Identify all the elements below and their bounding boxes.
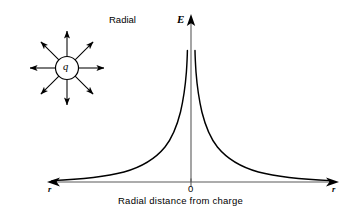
- y-axis-label: E: [177, 14, 184, 25]
- x-axis-left-label: r: [48, 185, 51, 194]
- field-arrow-45deg: [75, 42, 93, 60]
- charge-label: q: [63, 62, 68, 73]
- radial-field-figure: Radial q E 0 r r Radial distance from ch…: [0, 0, 351, 213]
- figure-canvas: [0, 0, 351, 213]
- x-axis-right-label: r: [332, 185, 335, 194]
- field-arrow-225deg: [41, 76, 59, 94]
- radial-label: Radial: [109, 15, 136, 25]
- origin-label: 0: [188, 184, 193, 194]
- field-arrow-315deg: [75, 76, 93, 94]
- x-axis-title: Radial distance from charge: [118, 196, 243, 206]
- field-arrow-135deg: [41, 42, 59, 60]
- field-curve-right-branch: [195, 51, 330, 181]
